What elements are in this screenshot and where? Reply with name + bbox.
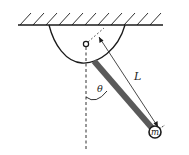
pendulum-diagram: θ L m [0, 0, 189, 155]
ceiling-hatching [20, 13, 161, 25]
mass-label: m [151, 127, 159, 137]
pendulum-rod [94, 61, 152, 128]
angle-label: θ [97, 83, 103, 94]
pivot-icon [83, 41, 88, 46]
length-label: L [133, 70, 141, 83]
length-dimension [99, 37, 165, 131]
